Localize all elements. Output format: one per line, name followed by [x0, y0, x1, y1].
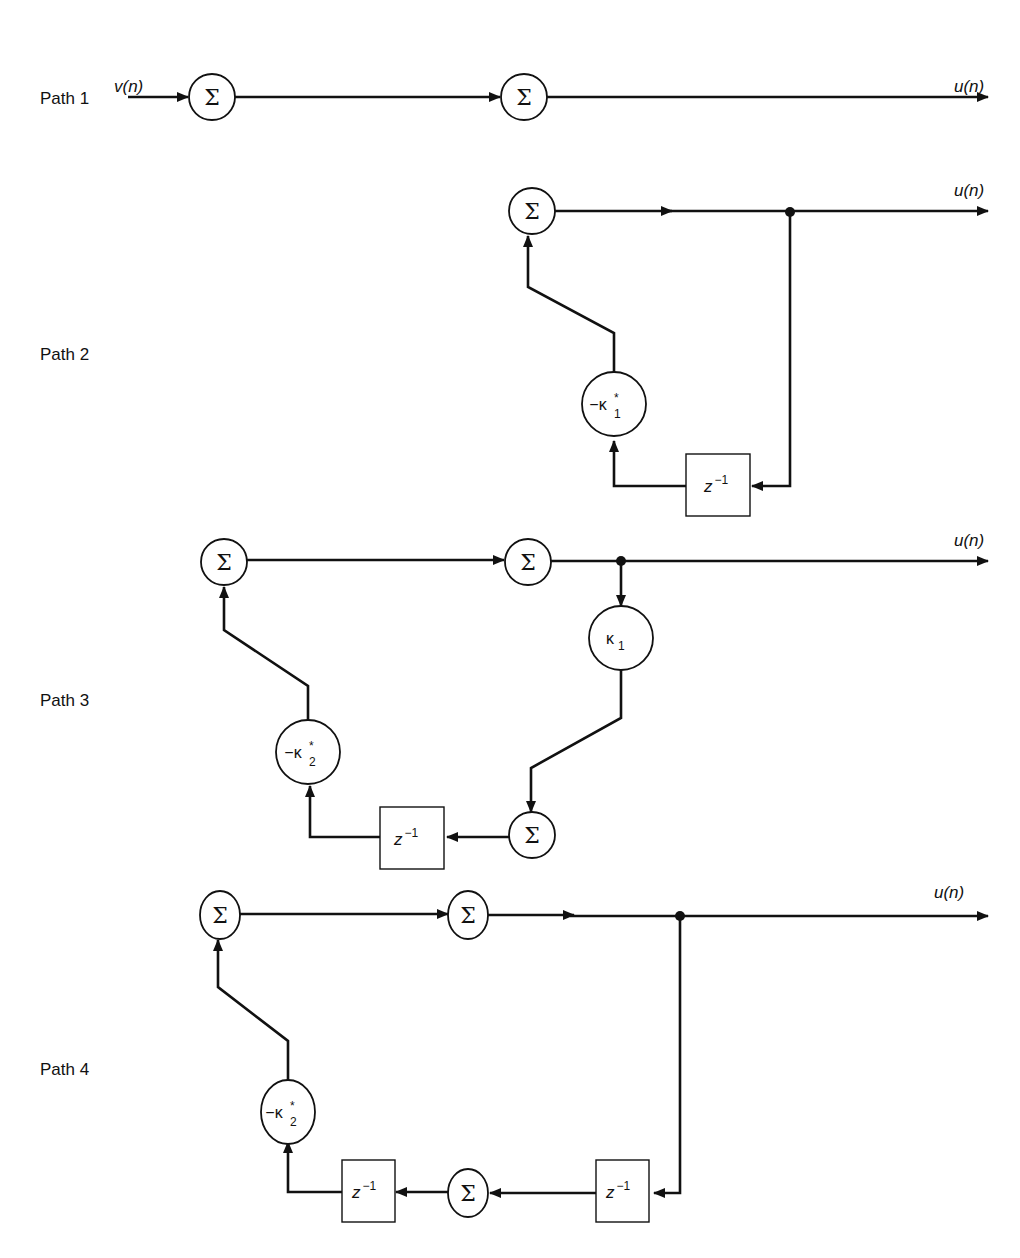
svg-text:Σ: Σ	[460, 903, 476, 928]
svg-text:Σ: Σ	[204, 85, 220, 110]
path-3: Path 3 u(n) Σ Σ κ 1 Σ z−1	[40, 531, 988, 869]
svg-text:2: 2	[290, 1115, 297, 1129]
summer-node: Σ	[201, 539, 247, 585]
gain-node-forward: κ 1	[589, 606, 653, 670]
delay-block: z−1	[686, 454, 750, 516]
svg-text:Σ: Σ	[520, 550, 536, 575]
input-label: v(n)	[114, 77, 143, 96]
output-label-3: u(n)	[954, 531, 984, 550]
path-2-label: Path 2	[40, 345, 89, 364]
output-label-2: u(n)	[954, 181, 984, 200]
output-label-1: u(n)	[954, 77, 984, 96]
svg-text:Σ: Σ	[216, 550, 232, 575]
summer-node: Σ	[189, 74, 235, 120]
svg-text:Σ: Σ	[212, 903, 228, 928]
gain-node: −κ * 2	[261, 1080, 315, 1144]
delay-block: z−1	[380, 807, 444, 869]
svg-text:*: *	[309, 739, 314, 753]
svg-text:−κ: −κ	[265, 1104, 283, 1121]
svg-text:Σ: Σ	[516, 85, 532, 110]
path-1: Path 1 v(n) u(n) Σ Σ	[40, 74, 988, 120]
svg-text:1: 1	[618, 639, 625, 653]
delay-block: z−1	[342, 1160, 395, 1222]
path-1-label: Path 1	[40, 89, 89, 108]
gain-node: −κ * 2	[276, 720, 340, 784]
delay-block: z−1	[596, 1160, 649, 1222]
gain-node: −κ * 1	[582, 372, 646, 436]
svg-text:Σ: Σ	[524, 823, 540, 848]
svg-text:Σ: Σ	[524, 199, 540, 224]
svg-text:κ: κ	[606, 630, 615, 647]
svg-text:−κ: −κ	[284, 744, 302, 761]
output-label-4: u(n)	[934, 883, 964, 902]
summer-node: Σ	[448, 1169, 488, 1217]
svg-text:Σ: Σ	[460, 1181, 476, 1206]
path-2: Path 2 u(n) Σ z−1 −κ * 1	[40, 181, 988, 516]
summer-node: Σ	[509, 188, 555, 234]
summer-node: Σ	[448, 891, 488, 939]
summer-node: Σ	[200, 891, 240, 939]
summer-node: Σ	[501, 74, 547, 120]
signal-flow-diagram: Path 1 v(n) u(n) Σ Σ Path 2 u(n) Σ z−1	[0, 0, 1020, 1258]
summer-node: Σ	[509, 812, 555, 858]
path-4: Path 4 u(n) Σ Σ z−1 Σ z−1	[40, 883, 988, 1222]
path-4-label: Path 4	[40, 1060, 89, 1079]
svg-text:*: *	[290, 1099, 295, 1113]
summer-node: Σ	[505, 539, 551, 585]
svg-text:−κ: −κ	[589, 396, 607, 413]
svg-text:2: 2	[309, 755, 316, 769]
svg-text:*: *	[614, 391, 619, 405]
path-3-label: Path 3	[40, 691, 89, 710]
svg-text:1: 1	[614, 407, 621, 421]
